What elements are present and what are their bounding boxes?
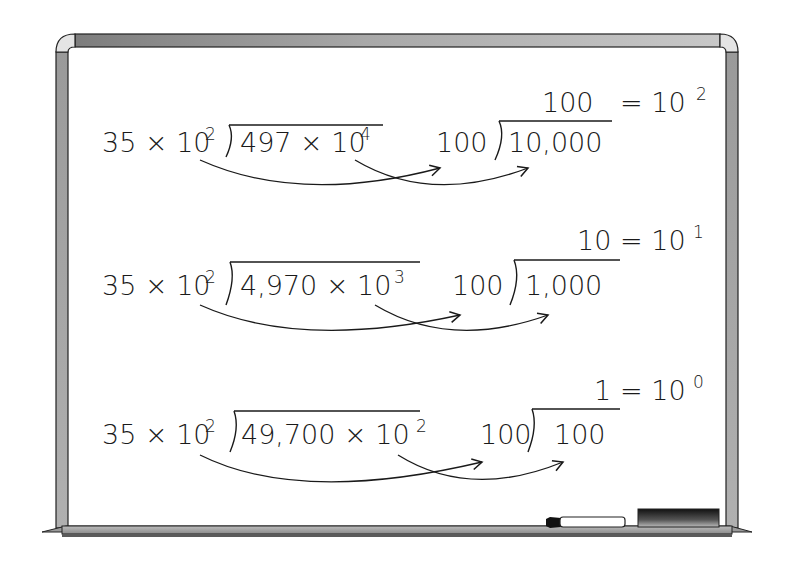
quotient: 100 <box>542 87 594 118</box>
divisor-exponent: 2 <box>205 124 216 144</box>
simplified-dividend: 1,000 <box>525 270 602 301</box>
simplified-dividend: 10,000 <box>508 127 602 158</box>
dividend-exponent: 4 <box>360 124 371 144</box>
simplified-divisor: 100 <box>452 270 504 301</box>
quotient-equals: = 10 <box>620 375 686 406</box>
quotient-exponent: 1 <box>693 222 704 242</box>
divisor: 35 × 10 <box>102 419 211 450</box>
quotient-equals: = 10 <box>620 87 686 118</box>
quotient: 1 <box>594 375 611 406</box>
divisor: 35 × 10 <box>102 127 211 158</box>
quotient: 10 <box>577 225 611 256</box>
simplified-divisor: 100 <box>436 127 488 158</box>
divisor-exponent: 2 <box>205 416 216 436</box>
eraser[interactable] <box>638 509 719 527</box>
dividend: 49,700 × 10 <box>241 419 410 450</box>
whiteboard-scene: 35 × 10 2 497 × 10 4 100 = 10 2 100 10,0… <box>0 0 789 567</box>
dividend: 497 × 10 <box>240 127 366 158</box>
marker[interactable] <box>546 517 625 528</box>
divisor-exponent: 2 <box>205 267 216 287</box>
dividend: 4,970 × 10 <box>240 270 391 301</box>
simplified-divisor: 100 <box>480 419 532 450</box>
marker-tray <box>42 526 752 537</box>
simplified-dividend: 100 <box>554 419 606 450</box>
dividend-exponent: 3 <box>394 267 405 287</box>
quotient-equals: = 10 <box>620 225 686 256</box>
divisor: 35 × 10 <box>102 270 211 301</box>
quotient-exponent: 2 <box>696 84 707 104</box>
dividend-exponent: 2 <box>416 416 427 436</box>
quotient-exponent: 0 <box>693 372 704 392</box>
